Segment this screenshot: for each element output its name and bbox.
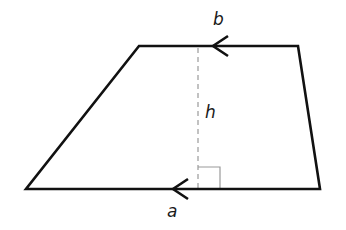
trapezoid-outline — [26, 46, 320, 189]
top-base-label: b — [213, 11, 224, 28]
trapezoid-figure — [0, 0, 346, 230]
bottom-base-label: a — [167, 203, 177, 220]
trapezoid-diagram: b h a — [0, 0, 346, 230]
height-label: h — [205, 104, 216, 121]
right-angle-marker — [198, 167, 220, 189]
